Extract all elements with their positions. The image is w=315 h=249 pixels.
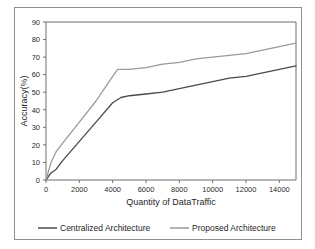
y-axis-tick-label: 60 (32, 70, 40, 79)
legend-label-1: Centralized Architecture (60, 223, 151, 233)
x-axis-tick-label: 10000 (202, 185, 223, 194)
y-axis-tick-label: 70 (32, 53, 40, 62)
series-line-proposed-architecture (46, 43, 296, 180)
x-axis-tick-label: 12000 (236, 185, 257, 194)
x-axis-tick-label: 4000 (104, 185, 121, 194)
y-axis-title: Accuracy(%) (19, 75, 29, 126)
line-chart: 0102030405060708090 02000400060008000100… (0, 0, 315, 249)
y-axis-tick-label: 0 (36, 176, 40, 185)
legend-label-2: Proposed Architecture (192, 223, 276, 233)
y-axis-tick-label: 10 (32, 158, 40, 167)
y-axis: 0102030405060708090 (32, 18, 46, 185)
x-axis-tick-label: 2000 (71, 185, 88, 194)
x-axis-title: Quantity of DataTraffic (126, 197, 216, 207)
y-axis-tick-label: 80 (32, 35, 40, 44)
figure-container: 0102030405060708090 02000400060008000100… (0, 0, 315, 249)
y-axis-tick-label: 30 (32, 123, 40, 132)
y-axis-tick-label: 90 (32, 18, 40, 27)
x-axis-tick-label: 6000 (138, 185, 155, 194)
x-axis-tick-label: 14000 (269, 185, 290, 194)
y-axis-tick-label: 50 (32, 88, 40, 97)
y-axis-tick-label: 40 (32, 106, 40, 115)
plot-frame (46, 22, 296, 180)
series-line-centralized-architecture (46, 66, 296, 180)
x-axis-tick-label: 8000 (171, 185, 188, 194)
data-series-group (46, 43, 296, 180)
y-axis-tick-label: 20 (32, 141, 40, 150)
x-axis: 02000400060008000100001200014000 (44, 180, 290, 194)
x-axis-tick-label: 0 (44, 185, 48, 194)
chart-legend: Centralized ArchitectureProposed Archite… (38, 223, 276, 233)
